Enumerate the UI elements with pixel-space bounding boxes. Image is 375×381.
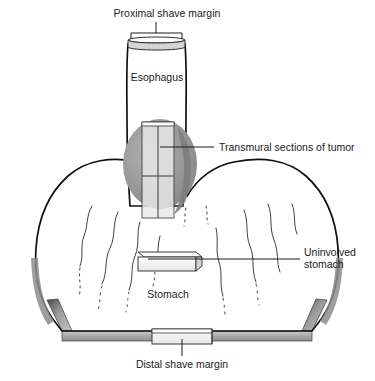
proximal-shave-margin-slab	[128, 22, 185, 50]
distal-shave-margin-block	[152, 329, 212, 356]
label-uninvolved-stomach-line2: stomach	[304, 258, 344, 270]
figure-root: Proximal shave margin Esophagus Transmur…	[0, 0, 375, 381]
label-esophagus: Esophagus	[131, 71, 184, 83]
label-proximal-shave-margin: Proximal shave margin	[114, 7, 221, 19]
label-distal-shave-margin: Distal shave margin	[136, 358, 228, 370]
uninvolved-block-top	[138, 252, 202, 257]
transmural-section-block	[142, 122, 174, 218]
transmural-block-top-face	[142, 122, 174, 126]
distal-block-top	[152, 329, 212, 333]
label-transmural-sections: Transmural sections of tumor	[219, 141, 355, 153]
anatomical-diagram: Proximal shave margin Esophagus Transmur…	[0, 0, 375, 381]
uninvolved-stomach-block	[138, 252, 202, 271]
label-stomach: Stomach	[147, 288, 189, 300]
label-uninvolved-stomach-line1: Uninvolved	[304, 246, 356, 258]
